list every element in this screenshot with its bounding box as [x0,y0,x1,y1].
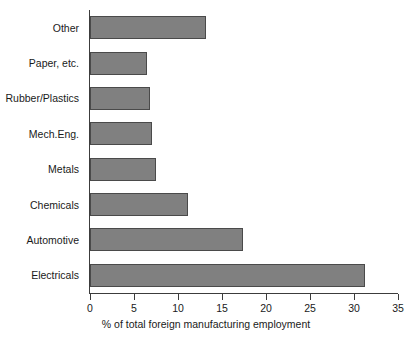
bar [90,52,147,75]
x-axis-tick-label: 30 [334,302,374,314]
x-axis-tick [134,294,135,300]
bar [90,122,152,145]
x-axis-tick-label: 25 [290,302,330,314]
x-axis-title: % of total foreign manufacturing employm… [0,318,412,330]
x-axis-tick [310,294,311,300]
x-axis-line [89,293,398,294]
y-axis-tick-label: Automotive [26,233,79,247]
x-axis-tick-label: 0 [70,302,110,314]
x-axis-tick [398,294,399,300]
x-axis-tick-label: 5 [114,302,154,314]
bar [90,228,243,251]
y-axis-tick-label: Mech.Eng. [29,127,79,141]
x-axis-tick [266,294,267,300]
bar-chart: OtherPaper, etc.Rubber/PlasticsMech.Eng.… [0,0,412,343]
bar [90,193,188,216]
y-axis-tick-label: Chemicals [30,198,79,212]
y-axis-tick-label: Electricals [31,268,79,282]
y-axis-category-labels: OtherPaper, etc.Rubber/PlasticsMech.Eng.… [0,10,85,293]
bar [90,264,365,287]
y-axis-tick-label: Metals [48,162,79,176]
x-axis-tick-label: 15 [202,302,242,314]
x-axis-tick-label: 20 [246,302,286,314]
x-axis-tick [90,294,91,300]
bar [90,158,156,181]
y-axis-tick-label: Paper, etc. [29,56,79,70]
x-axis-tick [178,294,179,300]
x-axis-tick-label: 35 [378,302,412,314]
bar [90,16,206,39]
x-axis-tick [354,294,355,300]
bar [90,87,150,110]
x-axis-tick-label: 10 [158,302,198,314]
plot-area: 05101520253035 [90,10,398,293]
y-axis-tick-label: Rubber/Plastics [5,91,79,105]
x-axis-tick [222,294,223,300]
y-axis-tick-label: Other [53,21,79,35]
